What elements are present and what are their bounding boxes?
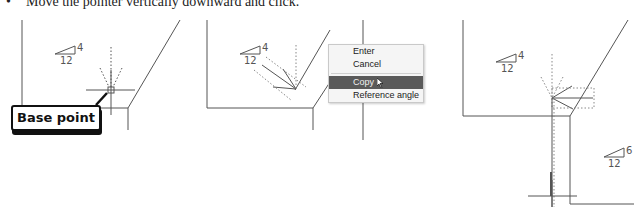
context-menu: Enter Cancel Copy Reference angle [328,44,424,103]
slope-rise-label: 4 [518,50,524,61]
slope-run-label: 12 [60,55,73,66]
slope-run-label: 12 [608,158,621,169]
mouse-pointer-icon [377,78,385,88]
slope-rise-label: 4 [262,42,268,53]
slope-rise-label: 4 [77,42,83,53]
slope-run-label: 12 [501,63,514,74]
menu-item-cancel[interactable]: Cancel [329,58,423,71]
menu-item-reference-angle[interactable]: Reference angle [329,89,423,102]
menu-item-enter[interactable]: Enter [329,45,423,58]
menu-item-copy[interactable]: Copy [329,76,423,89]
menu-separator [331,73,421,74]
slope-rise-label: 6 [626,145,632,156]
base-point-callout: Base point [11,105,101,131]
menu-item-copy-label: Copy [353,77,374,87]
panel-3-geometry [463,20,634,207]
slope-run-label: 12 [244,55,257,66]
cad-drawing [0,0,634,207]
